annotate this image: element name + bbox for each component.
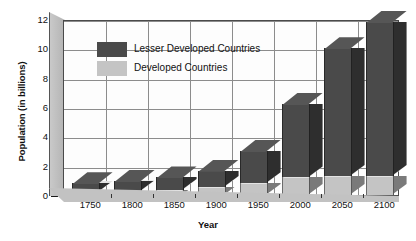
bar-side-face — [350, 48, 365, 176]
x-tick-mark-1800 — [111, 194, 112, 198]
x-tick-label-1950: 1950 — [238, 199, 278, 210]
population-bar-chart: Population (in billions) 121086420 17501… — [0, 0, 416, 241]
bar-2100 — [366, 22, 391, 195]
bar-front-face — [324, 48, 351, 176]
x-tick-label-1750: 1750 — [70, 199, 110, 210]
bar-front-face — [324, 176, 351, 195]
y-tick-label-0: 0 — [24, 191, 48, 200]
x-tick-label-2000: 2000 — [280, 199, 320, 210]
y-tick-mark-0 — [51, 196, 58, 197]
y-tick-label-2: 2 — [24, 162, 48, 171]
bar-front-face — [282, 177, 309, 195]
bar-segment-developed-2100 — [366, 176, 391, 195]
x-axis-title: Year — [0, 219, 416, 230]
y-tick-label-12: 12 — [24, 15, 48, 24]
bar-front-face — [366, 176, 393, 195]
legend-swatch — [97, 61, 127, 76]
bar-side-face — [308, 104, 323, 177]
y-tick-label-8: 8 — [24, 74, 48, 83]
x-tick-label-2050: 2050 — [322, 199, 362, 210]
legend-label: Lesser Developed Countries — [134, 43, 260, 54]
x-tick-mark-1850 — [153, 194, 154, 198]
x-tick-mark-2050 — [321, 194, 322, 198]
x-tick-label-1900: 1900 — [196, 199, 236, 210]
bar-side-face — [392, 22, 407, 176]
bar-segment-lesser-developed-1900 — [198, 171, 223, 187]
y-tick-label-6: 6 — [24, 103, 48, 112]
y-tick-label-4: 4 — [24, 132, 48, 141]
bar-2000 — [282, 104, 307, 195]
x-tick-label-1850: 1850 — [154, 199, 194, 210]
bar-segment-developed-2050 — [324, 176, 349, 195]
bar-2050 — [324, 48, 349, 195]
gridline-y-12 — [64, 21, 398, 22]
y-tick-label-10: 10 — [24, 44, 48, 53]
bar-front-face — [282, 104, 309, 177]
bar-side-face — [392, 176, 407, 195]
bar-front-face — [240, 151, 267, 183]
bar-1950 — [240, 151, 265, 195]
bar-front-face — [366, 22, 393, 176]
x-tick-label-2100: 2100 — [364, 199, 404, 210]
bar-front-face — [198, 171, 225, 187]
x-tick-mark-2000 — [279, 194, 280, 198]
x-tick-mark-2100 — [363, 194, 364, 198]
bar-segment-lesser-developed-2000 — [282, 104, 307, 177]
bar-segment-lesser-developed-2100 — [366, 22, 391, 176]
bar-1900 — [198, 171, 223, 195]
legend-swatch — [97, 42, 127, 57]
x-tick-label-1800: 1800 — [112, 199, 152, 210]
legend-label: Developed Countries — [134, 62, 227, 73]
x-tick-mark-1950 — [237, 194, 238, 198]
bar-segment-lesser-developed-2050 — [324, 48, 349, 176]
bar-front-face — [156, 177, 183, 189]
bar-segment-lesser-developed-1950 — [240, 151, 265, 183]
bar-segment-developed-2000 — [282, 177, 307, 195]
bar-segment-lesser-developed-1850 — [156, 177, 181, 189]
x-tick-mark-1900 — [195, 194, 196, 198]
